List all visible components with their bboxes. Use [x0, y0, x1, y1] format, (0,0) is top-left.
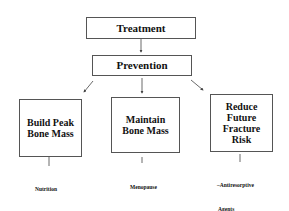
notes-maintain: Menopause [130, 168, 157, 200]
note-antiresorptive: –Antiresorptive [217, 182, 254, 190]
node-build-peak-bone-mass: Build Peak Bone Mass [19, 99, 82, 157]
node-prevention-label: Prevention [116, 59, 167, 71]
note-menopause: Menopause [130, 184, 157, 192]
node-maintain-label: Maintain Bone Mass [122, 114, 168, 136]
arrow-to-reduce-risk [191, 80, 203, 90]
notes-build-peak: Nutrition Exercise Genetics [35, 170, 57, 211]
node-treatment-label: Treatment [116, 22, 165, 34]
node-build-peak-label: Build Peak Bone Mass [27, 117, 74, 139]
node-reduce-fracture-risk: Reduce Future Fracture Risk [210, 94, 273, 152]
note-exercise: Exercise [35, 210, 57, 211]
node-reduce-risk-label: Reduce Future Fracture Risk [223, 101, 261, 145]
note-nutrition: Nutrition [35, 186, 57, 194]
notes-reduce-risk: –Antiresorptive Agents –Anabolic Agents [217, 166, 254, 211]
note-agents-1: Agents [217, 206, 254, 211]
arrow-to-build-peak [84, 81, 93, 92]
node-maintain-bone-mass: Maintain Bone Mass [111, 97, 180, 153]
node-prevention: Prevention [92, 55, 192, 76]
node-treatment: Treatment [86, 17, 196, 39]
